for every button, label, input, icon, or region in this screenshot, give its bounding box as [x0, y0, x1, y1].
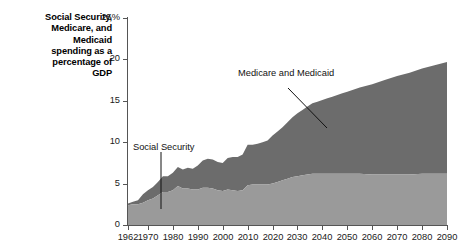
x-axis-line — [127, 225, 448, 226]
y-tick-label: 0 — [84, 220, 120, 229]
social-security-annotation: Social Security — [133, 142, 195, 152]
chart-plot — [0, 0, 469, 246]
x-tick-mark — [447, 226, 448, 230]
y-tick: 5 — [84, 179, 120, 189]
y-tick: 25% — [84, 13, 120, 23]
x-tick-mark — [128, 226, 129, 230]
x-tick-mark — [148, 226, 149, 230]
chart-figure: Social Security, Medicare, and Medicaid … — [0, 0, 469, 246]
x-tick-mark — [322, 226, 323, 230]
y-tick-label: 25% — [84, 13, 120, 22]
x-tick-mark — [347, 226, 348, 230]
y-tick-label: 5 — [84, 179, 120, 188]
x-tick-mark — [422, 226, 423, 230]
x-tick: 2090 — [427, 232, 467, 243]
x-tick-mark — [372, 226, 373, 230]
x-tick-mark — [248, 226, 249, 230]
x-tick-mark — [223, 226, 224, 230]
y-tick-label: 15 — [84, 96, 120, 105]
x-tick-label: 2090 — [427, 232, 467, 243]
medicare-medicaid-annotation: Medicare and Medicaid — [238, 68, 334, 78]
y-tick-mark — [123, 59, 128, 60]
x-tick-mark — [397, 226, 398, 230]
y-tick-mark — [123, 18, 128, 19]
y-tick: 15 — [84, 96, 120, 106]
y-tick-mark — [123, 142, 128, 143]
x-tick-mark — [173, 226, 174, 230]
x-tick-mark — [198, 226, 199, 230]
y-tick: 20 — [84, 54, 120, 64]
y-tick-mark — [123, 184, 128, 185]
y-tick: 10 — [84, 137, 120, 147]
x-tick-mark — [297, 226, 298, 230]
x-tick-mark — [273, 226, 274, 230]
y-tick: 0 — [84, 220, 120, 230]
y-axis-line — [127, 17, 128, 226]
y-tick-mark — [123, 101, 128, 102]
y-tick-label: 20 — [84, 54, 120, 63]
y-tick-label: 10 — [84, 137, 120, 146]
